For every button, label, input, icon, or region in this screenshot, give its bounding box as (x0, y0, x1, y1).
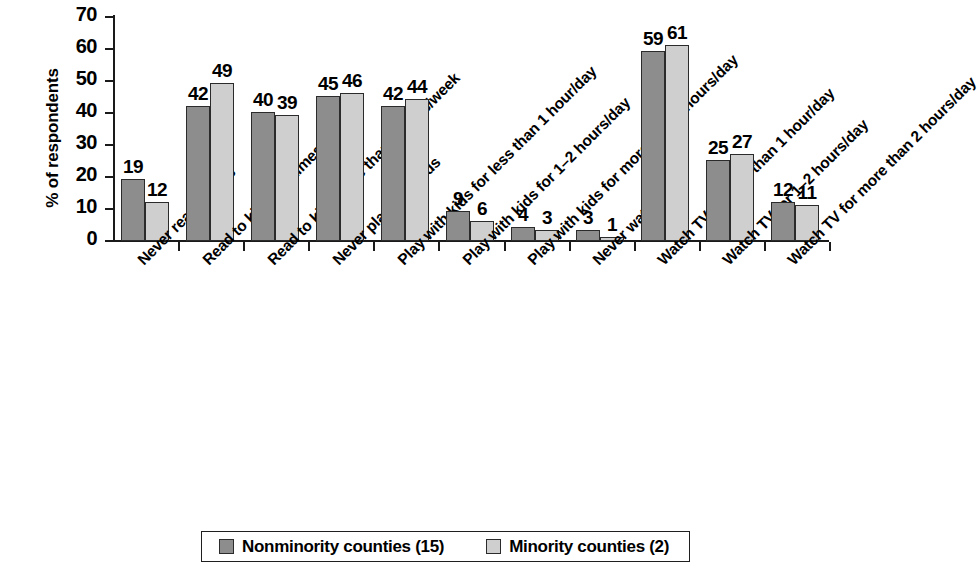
y-tick-label: 0 (51, 227, 97, 250)
bar-value-1-4: 44 (399, 76, 435, 98)
bar-0-4 (381, 106, 405, 241)
x-tick-mark (829, 242, 831, 251)
x-tick-mark (243, 242, 245, 251)
x-tick-mark (504, 242, 506, 251)
y-tick-mark (105, 208, 113, 210)
y-tick-label: 70 (51, 3, 97, 26)
bar-value-1-0: 12 (139, 179, 175, 201)
legend-swatch-nonminority (219, 539, 234, 554)
y-tick-label: 30 (51, 131, 97, 154)
bar-0-8 (641, 51, 665, 241)
y-tick-mark (105, 48, 113, 50)
bar-value-1-2: 39 (269, 92, 305, 114)
bar-1-2 (275, 115, 299, 241)
bar-0-1 (186, 106, 210, 241)
bar-value-1-8: 61 (659, 22, 695, 44)
bar-0-10 (771, 202, 795, 241)
bar-0-9 (706, 160, 730, 241)
legend-label-minority: Minority counties (2) (509, 537, 669, 557)
x-tick-mark (373, 242, 375, 251)
y-tick-mark (105, 176, 113, 178)
x-tick-mark (569, 242, 571, 251)
y-tick-label: 20 (51, 163, 97, 186)
y-tick-mark (105, 80, 113, 82)
bar-value-1-1: 49 (204, 60, 240, 82)
legend-entry-nonminority: Nonminority counties (15) (219, 537, 444, 557)
bar-value-1-9: 27 (724, 131, 760, 153)
y-tick-mark (105, 144, 113, 146)
bar-1-3 (340, 93, 364, 241)
x-tick-mark (634, 242, 636, 251)
bar-value-1-10: 11 (789, 182, 825, 204)
bar-0-6 (511, 227, 535, 241)
y-tick-label: 40 (51, 99, 97, 122)
bar-0-2 (251, 112, 275, 241)
chart-legend: Nonminority counties (15) Minority count… (201, 531, 690, 562)
y-tick-label: 60 (51, 35, 97, 58)
y-tick-mark (105, 240, 113, 242)
bar-value-0-0: 19 (115, 156, 151, 178)
legend-label-nonminority: Nonminority counties (15) (242, 537, 444, 557)
legend-entry-minority: Minority counties (2) (486, 537, 669, 557)
x-tick-mark (764, 242, 766, 251)
y-tick-label: 50 (51, 67, 97, 90)
y-tick-label: 10 (51, 195, 97, 218)
bar-1-1 (210, 83, 234, 241)
legend-swatch-minority (486, 539, 501, 554)
x-tick-mark (178, 242, 180, 251)
bar-value-1-3: 46 (334, 70, 370, 92)
y-tick-mark (105, 112, 113, 114)
bar-value-1-5: 6 (464, 198, 500, 220)
x-tick-mark (438, 242, 440, 251)
y-axis-line (113, 15, 115, 242)
bar-1-8 (665, 45, 689, 241)
bar-0-3 (316, 96, 340, 241)
x-tick-mark (308, 242, 310, 251)
bar-1-4 (405, 99, 429, 241)
y-tick-mark (105, 16, 113, 18)
x-tick-mark (699, 242, 701, 251)
